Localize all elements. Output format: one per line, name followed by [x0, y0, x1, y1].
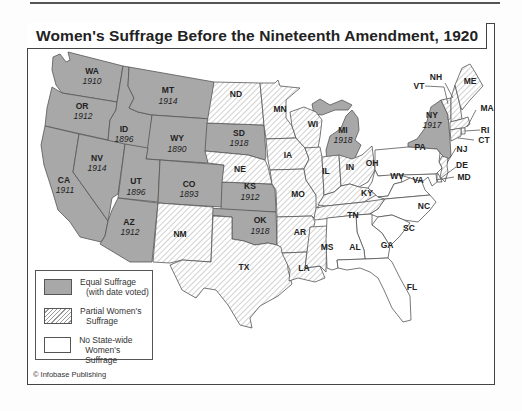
- svg-text:RI: RI: [481, 125, 490, 135]
- svg-text:GA: GA: [381, 240, 394, 250]
- svg-text:OH: OH: [366, 158, 379, 168]
- svg-text:MT: MT: [162, 85, 175, 95]
- svg-text:1917: 1917: [423, 120, 442, 130]
- svg-text:PA: PA: [414, 142, 425, 152]
- svg-text:AZ: AZ: [123, 217, 134, 227]
- svg-text:NV: NV: [91, 153, 103, 163]
- title-box: Women's Suffrage Before the Nineteenth A…: [27, 23, 487, 49]
- svg-text:IL: IL: [322, 166, 330, 176]
- svg-text:VT: VT: [414, 81, 426, 91]
- legend-sublabel: Suffrage: [80, 316, 141, 326]
- svg-text:CO: CO: [183, 179, 196, 189]
- legend-label: Partial Women's: [80, 306, 141, 316]
- legend: Equal Suffrage (with date voted) Partial…: [35, 270, 153, 360]
- svg-text:1918: 1918: [251, 226, 270, 236]
- state-FL[interactable]: [337, 258, 411, 322]
- state-PA[interactable]: [375, 147, 442, 176]
- svg-text:FL: FL: [407, 282, 417, 292]
- svg-text:1914: 1914: [159, 96, 178, 106]
- svg-text:AR: AR: [294, 227, 306, 237]
- svg-text:1914: 1914: [88, 163, 107, 173]
- svg-text:ME: ME: [464, 76, 477, 86]
- legend-label: Equal Suffrage: [80, 277, 149, 287]
- state-CT[interactable]: [450, 128, 461, 141]
- legend-label: No State-wide: [79, 335, 152, 345]
- svg-text:MN: MN: [273, 104, 286, 114]
- svg-text:1912: 1912: [74, 111, 93, 121]
- svg-text:1912: 1912: [121, 227, 140, 237]
- state-ME[interactable]: [455, 64, 483, 110]
- svg-text:CT: CT: [478, 135, 490, 145]
- svg-text:TN: TN: [347, 210, 358, 220]
- svg-text:MO: MO: [291, 189, 305, 199]
- svg-text:KY: KY: [361, 188, 373, 198]
- svg-text:DE: DE: [456, 160, 468, 170]
- svg-text:ND: ND: [230, 89, 242, 99]
- svg-text:MS: MS: [321, 242, 334, 252]
- svg-text:IA: IA: [284, 150, 293, 160]
- legend-sublabel: (with date voted): [80, 287, 149, 297]
- legend-item-equal: Equal Suffrage (with date voted): [44, 277, 149, 297]
- svg-text:1896: 1896: [127, 187, 146, 197]
- svg-text:MA: MA: [480, 103, 493, 113]
- svg-text:WV: WV: [390, 171, 404, 181]
- svg-text:NC: NC: [418, 201, 430, 211]
- svg-text:NH: NH: [430, 72, 442, 82]
- svg-text:KS: KS: [244, 181, 256, 191]
- legend-item-partial: Partial Women's Suffrage: [44, 306, 141, 326]
- partial-suffrage-swatch: [44, 308, 72, 324]
- svg-text:OK: OK: [254, 215, 268, 225]
- svg-text:IN: IN: [346, 162, 355, 172]
- svg-text:1893: 1893: [180, 189, 199, 199]
- svg-text:MD: MD: [457, 172, 470, 182]
- svg-text:WY: WY: [170, 133, 184, 143]
- svg-text:MI: MI: [338, 125, 347, 135]
- svg-text:SC: SC: [403, 223, 415, 233]
- svg-text:OR: OR: [76, 101, 89, 111]
- equal-suffrage-swatch: [44, 279, 72, 295]
- svg-text:UT: UT: [130, 176, 142, 186]
- svg-text:1910: 1910: [83, 76, 102, 86]
- svg-text:SD: SD: [233, 128, 245, 138]
- svg-text:1912: 1912: [241, 192, 260, 202]
- svg-text:1918: 1918: [334, 135, 353, 145]
- svg-text:NJ: NJ: [457, 144, 468, 154]
- state-MI-upper[interactable]: [312, 99, 352, 115]
- map-title: Women's Suffrage Before the Nineteenth A…: [36, 27, 478, 45]
- svg-text:TX: TX: [239, 262, 250, 272]
- legend-item-none: No State-wide Women's Suffrage: [44, 335, 152, 365]
- legend-sublabel: Women's Suffrage: [79, 345, 152, 365]
- svg-text:NM: NM: [173, 229, 186, 239]
- svg-text:NY: NY: [426, 110, 438, 120]
- svg-text:WI: WI: [308, 119, 318, 129]
- svg-text:CA: CA: [58, 175, 70, 185]
- svg-text:NE: NE: [234, 164, 246, 174]
- svg-text:LA: LA: [298, 263, 309, 273]
- svg-text:1911: 1911: [56, 185, 75, 195]
- state-RI[interactable]: [461, 128, 465, 134]
- svg-text:1896: 1896: [115, 134, 134, 144]
- publisher-credit: © Infobase Publishing: [33, 370, 106, 379]
- svg-text:WA: WA: [85, 66, 99, 76]
- svg-text:1918: 1918: [230, 138, 249, 148]
- svg-text:ID: ID: [120, 124, 129, 134]
- svg-text:AL: AL: [349, 242, 360, 252]
- no-suffrage-swatch: [44, 337, 71, 353]
- svg-text:1890: 1890: [168, 144, 187, 154]
- svg-text:VA: VA: [412, 175, 423, 185]
